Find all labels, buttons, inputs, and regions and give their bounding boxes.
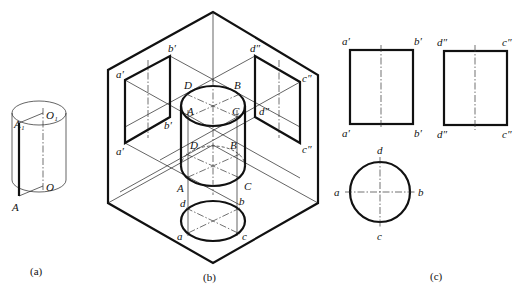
label-side-d-bottom: d″: [437, 128, 448, 140]
label-d: d: [180, 197, 186, 209]
cylinder-projection-figure: A₁ O₁ O A (a) a′ b′ b′ a′ d″ c″ d″ c″: [0, 0, 519, 300]
label-B-top: B: [234, 79, 241, 91]
label-top-a: a: [334, 186, 340, 198]
label-b-prime-top: b′: [168, 42, 177, 54]
panel-b-projection-box: a′ b′ b′ a′ d″ c″ d″ c″ D B A C D B A C: [108, 12, 318, 284]
figure-canvas: A₁ O₁ O A (a) a′ b′ b′ a′ d″ c″ d″ c″: [0, 0, 519, 300]
label-b-prime-bottom: b′: [164, 119, 173, 131]
label-D-top: D: [183, 79, 192, 91]
caption-c: (c): [430, 270, 443, 283]
label-c-dprime-top: c″: [302, 72, 312, 84]
label-O1: O₁: [46, 109, 58, 121]
panel-a-isometric-cylinder: A₁ O₁ O A (a): [11, 101, 66, 278]
label-front-b-bottom: b′: [414, 127, 423, 139]
label-D-bottom: D: [189, 139, 198, 151]
label-c: c: [242, 230, 247, 242]
caption-b: (b): [203, 271, 216, 284]
label-A-top: A: [186, 105, 194, 117]
label-b: b: [239, 195, 245, 207]
label-C-top: C: [232, 105, 240, 117]
label-A: A: [11, 201, 19, 213]
label-top-b: b: [418, 186, 424, 198]
label-a-prime-top: a′: [116, 68, 125, 80]
label-A-bottom: A: [176, 182, 184, 194]
label-front-b-top: b′: [414, 35, 423, 47]
label-a-prime-bottom: a′: [116, 145, 125, 157]
label-A1: A₁: [13, 118, 25, 130]
label-c-dprime-bottom: c″: [302, 143, 312, 155]
label-front-a-top: a′: [342, 35, 351, 47]
label-side-c-bottom: c″: [502, 128, 512, 140]
label-B-bottom: B: [230, 139, 237, 151]
label-top-c: c: [377, 230, 382, 242]
label-side-d-top: d″: [437, 36, 448, 48]
label-a: a: [177, 230, 183, 242]
label-O: O: [46, 181, 54, 193]
label-top-d: d: [377, 144, 383, 156]
label-side-c-top: c″: [502, 36, 512, 48]
label-d-dprime-bottom: d″: [259, 105, 270, 117]
label-C-bottom: C: [244, 180, 252, 192]
label-front-a-bottom: a′: [342, 127, 351, 139]
panel-c-three-views: a′ b′ a′ b′ d″ c″ d″ c″ d a b c (c): [334, 35, 512, 283]
label-d-dprime-top: d″: [250, 42, 261, 54]
caption-a: (a): [30, 265, 43, 278]
